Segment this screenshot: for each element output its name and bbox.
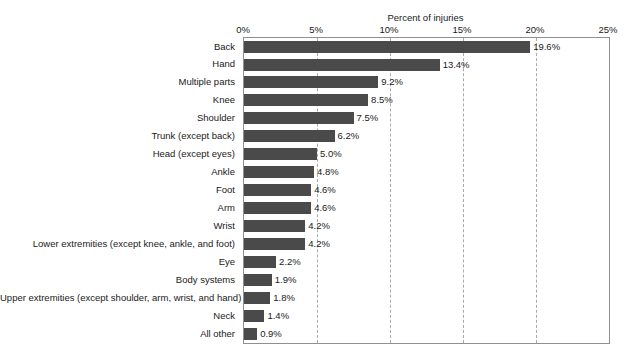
bar-row[interactable]: 4.2%	[244, 217, 609, 235]
clipped-title-fragment	[0, 0, 635, 3]
bar-row[interactable]: 5.0%	[244, 146, 609, 164]
bar[interactable]	[244, 310, 264, 322]
bar-value-label: 5.0%	[320, 147, 342, 160]
bar-row[interactable]: 19.6%	[244, 38, 609, 56]
x-axis-tick-labels: 0%5%10%15%20%25%	[0, 24, 635, 36]
x-tick-label: 15%	[452, 24, 471, 35]
bar-value-label: 4.6%	[314, 201, 336, 214]
category-label: Body systems	[0, 273, 239, 286]
bar[interactable]	[244, 292, 270, 304]
bar-rows: 19.6%13.4%9.2%8.5%7.5%6.2%5.0%4.8%4.6%4.…	[244, 38, 609, 343]
bar-row[interactable]: 4.6%	[244, 182, 609, 200]
category-label: All other	[0, 327, 239, 340]
bar-value-label: 4.2%	[308, 219, 330, 232]
bar[interactable]	[244, 220, 305, 232]
bar[interactable]	[244, 328, 257, 340]
bar[interactable]	[244, 112, 354, 124]
bar-value-label: 1.9%	[275, 273, 297, 286]
bar-row[interactable]: 13.4%	[244, 56, 609, 74]
bar-value-label: 13.4%	[443, 58, 470, 71]
bar-value-label: 2.2%	[279, 255, 301, 268]
bar-value-label: 6.2%	[338, 129, 360, 142]
x-tick-label: 10%	[379, 24, 398, 35]
bar-row[interactable]: 1.4%	[244, 307, 609, 325]
bar[interactable]	[244, 256, 276, 268]
category-label: Multiple parts	[0, 75, 239, 88]
x-tick-label: 5%	[309, 24, 323, 35]
category-label: Shoulder	[0, 111, 239, 124]
bar-row[interactable]: 8.5%	[244, 92, 609, 110]
bar-value-label: 0.9%	[260, 327, 282, 340]
bar-row[interactable]: 1.8%	[244, 289, 609, 307]
x-axis-title: Percent of injuries	[243, 12, 608, 23]
bar[interactable]	[244, 94, 368, 106]
bar[interactable]	[244, 238, 305, 250]
category-label: Back	[0, 40, 239, 53]
plot-area: 19.6%13.4%9.2%8.5%7.5%6.2%5.0%4.8%4.6%4.…	[243, 37, 610, 344]
category-label: Wrist	[0, 219, 239, 232]
bar[interactable]	[244, 59, 440, 71]
bar-row[interactable]: 6.2%	[244, 128, 609, 146]
bar-value-label: 4.8%	[317, 165, 339, 178]
bar-row[interactable]: 1.9%	[244, 271, 609, 289]
bar-row[interactable]: 4.2%	[244, 235, 609, 253]
bar[interactable]	[244, 202, 311, 214]
bar[interactable]	[244, 274, 272, 286]
category-label: Arm	[0, 201, 239, 214]
category-label: Hand	[0, 57, 239, 70]
category-label: Upper extremities (except shoulder, arm,…	[0, 291, 239, 304]
bar-row[interactable]: 0.9%	[244, 325, 609, 343]
category-label: Head (except eyes)	[0, 147, 239, 160]
bar-value-label: 8.5%	[371, 93, 393, 106]
category-label: Foot	[0, 183, 239, 196]
bar-row[interactable]: 4.8%	[244, 164, 609, 182]
bar-value-label: 1.4%	[267, 309, 289, 322]
bar[interactable]	[244, 184, 311, 196]
category-label: Neck	[0, 309, 239, 322]
bar-value-label: 4.6%	[314, 183, 336, 196]
bar-value-label: 9.2%	[381, 75, 403, 88]
bar-value-label: 1.8%	[273, 291, 295, 304]
category-label: Ankle	[0, 165, 239, 178]
category-axis-labels: BackHandMultiple partsKneeShoulderTrunk …	[0, 37, 239, 342]
x-tick-label: 20%	[525, 24, 544, 35]
bar-chart-figure: Percent of injuries 0%5%10%15%20%25% Bac…	[0, 0, 635, 363]
bar[interactable]	[244, 76, 378, 88]
bar-row[interactable]: 2.2%	[244, 253, 609, 271]
bar-value-label: 19.6%	[533, 40, 560, 53]
category-label: Knee	[0, 93, 239, 106]
bar-row[interactable]: 4.6%	[244, 199, 609, 217]
bar[interactable]	[244, 166, 314, 178]
bar-row[interactable]: 9.2%	[244, 74, 609, 92]
bar[interactable]	[244, 41, 530, 53]
bar-row[interactable]: 7.5%	[244, 110, 609, 128]
x-tick-label: 25%	[598, 24, 617, 35]
bar[interactable]	[244, 148, 317, 160]
category-label: Lower extremities (except knee, ankle, a…	[0, 237, 239, 250]
bar[interactable]	[244, 130, 335, 142]
category-label: Eye	[0, 255, 239, 268]
category-label: Trunk (except back)	[0, 129, 239, 142]
bar-value-label: 7.5%	[357, 111, 379, 124]
x-tick-label: 0%	[236, 24, 250, 35]
bar-value-label: 4.2%	[308, 237, 330, 250]
